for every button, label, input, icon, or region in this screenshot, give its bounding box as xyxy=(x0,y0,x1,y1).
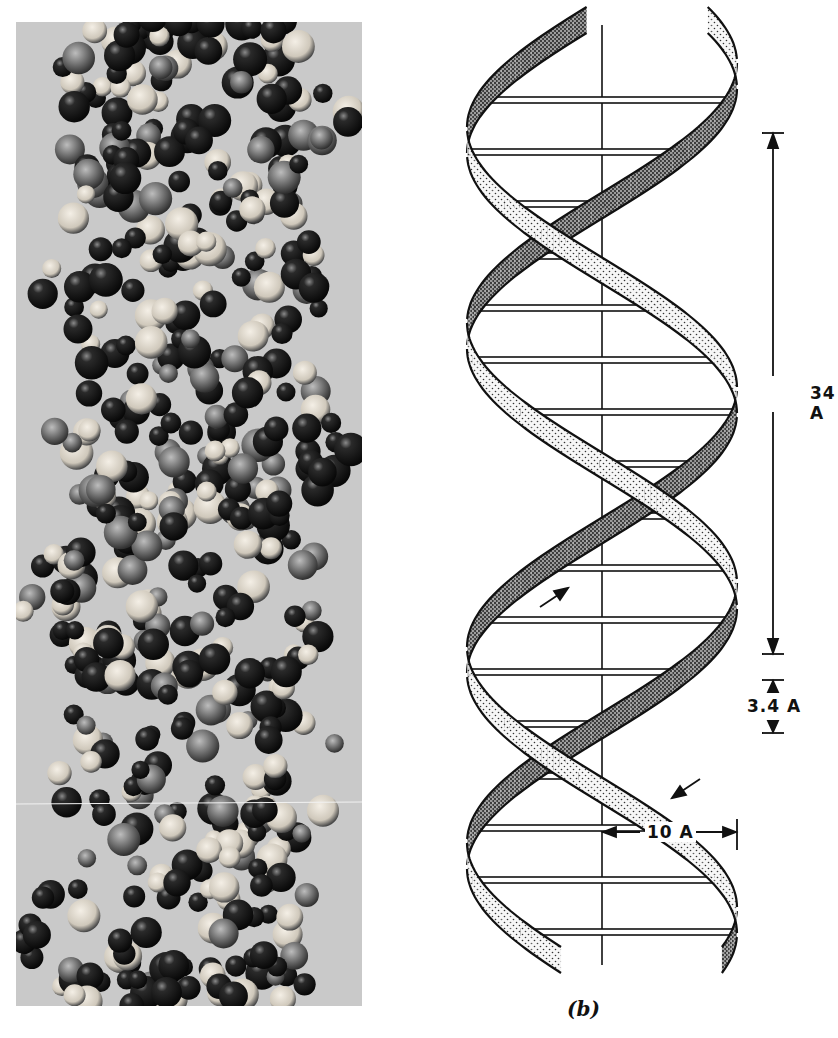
panel-b-label: (b) xyxy=(567,997,600,1021)
base-pair-rung xyxy=(483,617,731,623)
base-pair-rung xyxy=(473,877,721,883)
base-pair-rung xyxy=(474,825,661,831)
base-pair-rung xyxy=(474,305,661,311)
radius-label: 10 A xyxy=(645,822,696,842)
base-pair-rung xyxy=(468,669,683,675)
helix-schematic xyxy=(440,0,821,1000)
arrow-down-left-icon xyxy=(682,779,700,791)
base-pair-rung xyxy=(483,97,731,103)
dna-model-photograph xyxy=(16,22,362,1006)
figure-caption-cutoff xyxy=(20,1030,800,1038)
base-pair-rung xyxy=(543,565,730,571)
base-pair-rung xyxy=(521,409,736,415)
base-pair-rung xyxy=(468,149,683,155)
double-helix-diagram: 34 A 3.4 A 10 A xyxy=(440,0,821,1000)
base-pair-rung xyxy=(521,929,736,935)
arrow-up-right-icon xyxy=(540,595,558,607)
space-filling-model xyxy=(16,22,362,1006)
base-pair-rung xyxy=(473,357,721,363)
pitch-label: 34 A xyxy=(808,383,838,423)
base-spacing-label: 3.4 A xyxy=(745,696,803,716)
